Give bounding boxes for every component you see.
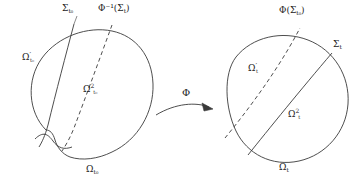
label-right-interface-phi-sigma-t0: Φ(Σt₀): [279, 6, 305, 15]
label-left-interface-sigma-t0: Σt₀: [62, 4, 73, 13]
map-arrow-head: [202, 103, 213, 111]
domain-mapping-figure: Σt₀ Φ⁻¹(Σt) Ω′t₀ Ω2t₀ Ωt₀ Φ Φ(Σt₀) Σt Ω′…: [0, 0, 362, 185]
label-right-interface-sigma-t: Σt: [333, 40, 342, 49]
label-left-subregion-two: Ω2t₀: [83, 85, 98, 94]
left-sigma-t0-leader: [74, 16, 77, 24]
label-left-domain-outer: Ωt₀: [86, 165, 98, 174]
right-domain-boundary: [227, 35, 348, 162]
label-right-domain-outer: Ωt: [279, 163, 289, 172]
figure-canvas: [0, 0, 362, 185]
label-left-interface-phi-inverse-sigma-t: Φ⁻¹(Σt): [98, 4, 130, 13]
right-interface-phi-sigma-t0: [225, 28, 300, 138]
map-arrow-shaft: [156, 104, 209, 115]
label-right-subregion-two: Ω2t: [288, 110, 301, 119]
right-interface-sigma-t: [248, 53, 332, 155]
label-right-subregion-prime: Ω′t: [248, 64, 259, 73]
label-map-phi: Φ: [182, 88, 190, 98]
label-left-subregion-prime: Ω′t₀: [22, 53, 35, 62]
